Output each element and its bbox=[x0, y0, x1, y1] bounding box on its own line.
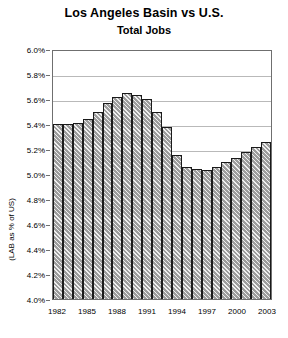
y-axis-tick-mark bbox=[46, 200, 50, 201]
y-axis-tick-label: 4.8% bbox=[27, 196, 45, 205]
bar bbox=[73, 123, 83, 299]
y-axis-tick-mark bbox=[46, 75, 50, 76]
bar bbox=[103, 103, 113, 299]
y-axis-tick-label: 4.0% bbox=[27, 296, 45, 305]
bar bbox=[63, 124, 73, 299]
x-axis-tick-label: 1985 bbox=[78, 307, 96, 316]
y-axis-title: (LAB as % of US) bbox=[7, 170, 16, 290]
y-axis-tick-label: 5.2% bbox=[27, 146, 45, 155]
y-axis-tick-label: 4.4% bbox=[27, 246, 45, 255]
y-axis-tick-label: 5.6% bbox=[27, 96, 45, 105]
y-axis-tick-mark bbox=[46, 50, 50, 51]
y-axis-tick-mark bbox=[46, 300, 50, 301]
x-axis-tick-label: 2003 bbox=[258, 307, 276, 316]
y-axis: (LAB as % of US) 6.0%5.8%5.6%5.4%5.2%5.0… bbox=[0, 50, 50, 300]
y-axis-tick-label: 5.0% bbox=[27, 171, 45, 180]
bar bbox=[132, 95, 142, 299]
x-axis: 19821985198819911994199720002003 bbox=[52, 303, 272, 323]
bar bbox=[93, 112, 103, 300]
y-axis-tick-mark bbox=[46, 175, 50, 176]
bar bbox=[212, 167, 222, 300]
y-axis-tick-mark bbox=[46, 275, 50, 276]
bar bbox=[152, 112, 162, 300]
bar-series bbox=[53, 51, 271, 299]
chart-title: Los Angeles Basin vs U.S. bbox=[0, 6, 288, 20]
y-axis-tick-label: 4.6% bbox=[27, 221, 45, 230]
x-axis-tick-label: 1991 bbox=[138, 307, 156, 316]
y-axis-tick-label: 5.8% bbox=[27, 71, 45, 80]
plot-area bbox=[52, 50, 272, 300]
bar bbox=[172, 155, 182, 299]
x-axis-tick-label: 1994 bbox=[168, 307, 186, 316]
bar bbox=[142, 99, 152, 299]
bar bbox=[231, 158, 241, 299]
bar bbox=[122, 93, 132, 299]
x-axis-tick-label: 1988 bbox=[108, 307, 126, 316]
x-axis-tick-label: 1982 bbox=[48, 307, 66, 316]
y-axis-tick-label: 5.4% bbox=[27, 121, 45, 130]
bar bbox=[251, 147, 261, 300]
y-axis-tick-mark bbox=[46, 150, 50, 151]
bar bbox=[241, 152, 251, 300]
y-axis-tick-mark bbox=[46, 125, 50, 126]
bar bbox=[162, 127, 172, 300]
y-axis-tick-mark bbox=[46, 250, 50, 251]
bar bbox=[261, 142, 271, 300]
y-axis-tick-label: 6.0% bbox=[27, 46, 45, 55]
chart-container: Los Angeles Basin vs U.S. Total Jobs (LA… bbox=[0, 0, 288, 338]
y-axis-tick-mark bbox=[46, 225, 50, 226]
bar bbox=[53, 124, 63, 299]
bar bbox=[83, 119, 93, 299]
chart-subtitle: Total Jobs bbox=[0, 24, 288, 36]
bar bbox=[112, 97, 122, 300]
x-axis-tick-label: 1997 bbox=[198, 307, 216, 316]
bar bbox=[221, 162, 231, 300]
x-axis-tick-label: 2000 bbox=[228, 307, 246, 316]
bar bbox=[182, 167, 192, 300]
bar bbox=[202, 170, 212, 299]
y-axis-tick-label: 4.2% bbox=[27, 271, 45, 280]
bar bbox=[192, 169, 202, 299]
y-axis-tick-mark bbox=[46, 100, 50, 101]
